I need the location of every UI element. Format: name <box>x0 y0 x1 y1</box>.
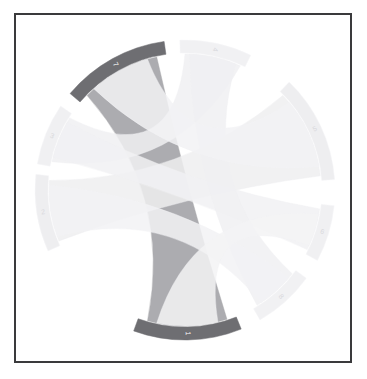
figure-frame: 17234568 <box>14 13 352 363</box>
chord-diagram-canvas: 17234568 <box>16 15 350 361</box>
ribbon-layer <box>49 54 320 326</box>
chord-arc-label: 1 <box>185 331 192 335</box>
